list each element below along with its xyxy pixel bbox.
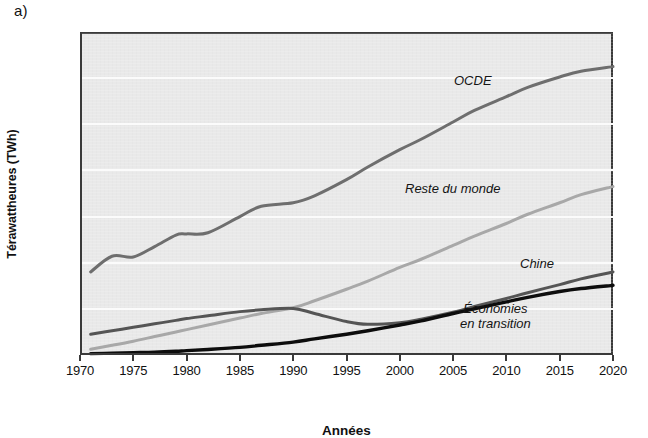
annotation-economies-line1: Économies: [463, 301, 527, 316]
x-tick-mark: [79, 355, 81, 361]
x-tick-label: 2005: [423, 363, 483, 378]
panel-label: a): [14, 2, 28, 19]
x-tick-label: 1970: [50, 363, 110, 378]
x-tick-mark: [452, 355, 454, 361]
x-tick-label: 1980: [157, 363, 217, 378]
x-tick-label: 1990: [263, 363, 323, 378]
x-tick-mark: [505, 355, 507, 361]
x-tick-mark: [292, 355, 294, 361]
series-lines: [80, 32, 613, 355]
annotation-economies-en-transition: Économies en transition: [460, 302, 531, 332]
y-axis-title: Térawattheures (TWh): [0, 32, 25, 355]
series-line-chine: [91, 272, 613, 334]
x-tick-label: 2020: [583, 363, 643, 378]
y-axis-title-text: Térawattheures (TWh): [5, 129, 19, 258]
x-tick-mark: [346, 355, 348, 361]
annotation-ocde: OCDE: [454, 74, 492, 89]
x-tick-mark: [559, 355, 561, 361]
x-tick-mark: [132, 355, 134, 361]
x-tick-label: 2000: [370, 363, 430, 378]
chart-plot-area: 02 0004 0006 0008 00010 00012 00014 000 …: [80, 32, 613, 355]
x-axis-title: Années: [80, 423, 613, 438]
x-tick-mark: [399, 355, 401, 361]
x-tick-mark: [239, 355, 241, 361]
series-line-economies-en-transition: [91, 285, 613, 353]
series-line-ocde: [91, 67, 613, 272]
x-tick-label: 1985: [210, 363, 270, 378]
x-tick-label: 2010: [476, 363, 536, 378]
x-tick-mark: [186, 355, 188, 361]
y-axis-line: [80, 32, 82, 355]
annotation-reste-du-monde: Reste du monde: [405, 182, 500, 197]
annotation-economies-line2: en transition: [460, 316, 531, 331]
annotation-chine: Chine: [520, 257, 554, 272]
x-tick-label: 2015: [530, 363, 590, 378]
x-tick-mark: [612, 355, 614, 361]
x-tick-label: 1975: [103, 363, 163, 378]
x-tick-label: 1995: [317, 363, 377, 378]
